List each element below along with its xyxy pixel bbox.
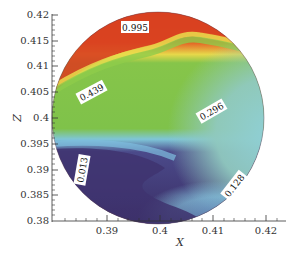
- svg-text:0.41: 0.41: [27, 60, 49, 71]
- contour-field: [40, 10, 296, 235]
- svg-text:0.4: 0.4: [152, 225, 168, 236]
- svg-text:0.415: 0.415: [20, 35, 49, 46]
- svg-text:0.39: 0.39: [96, 225, 118, 236]
- svg-text:0.42: 0.42: [255, 225, 277, 236]
- contour-label-0995: 0.995: [121, 21, 149, 33]
- svg-text:0.995: 0.995: [122, 23, 148, 33]
- svg-text:0.4: 0.4: [33, 112, 49, 123]
- svg-text:0.385: 0.385: [20, 189, 49, 200]
- contour-plot: 0.995 0.439 0.296 0.013 0.128: [0, 0, 296, 258]
- x-tick-labels: 0.39 0.4 0.41 0.42: [96, 225, 277, 236]
- svg-text:0.395: 0.395: [20, 138, 49, 149]
- y-tick-labels: 0.42 0.415 0.41 0.405 0.4 0.395 0.39 0.3…: [20, 9, 49, 226]
- svg-text:0.405: 0.405: [20, 86, 49, 97]
- svg-text:0.41: 0.41: [202, 225, 224, 236]
- svg-text:0.38: 0.38: [27, 215, 49, 226]
- x-axis-title: X: [175, 236, 185, 249]
- y-axis-title: Z: [11, 114, 24, 123]
- svg-text:0.39: 0.39: [27, 164, 49, 175]
- y-axis: [52, 14, 58, 222]
- svg-text:0.42: 0.42: [27, 9, 49, 20]
